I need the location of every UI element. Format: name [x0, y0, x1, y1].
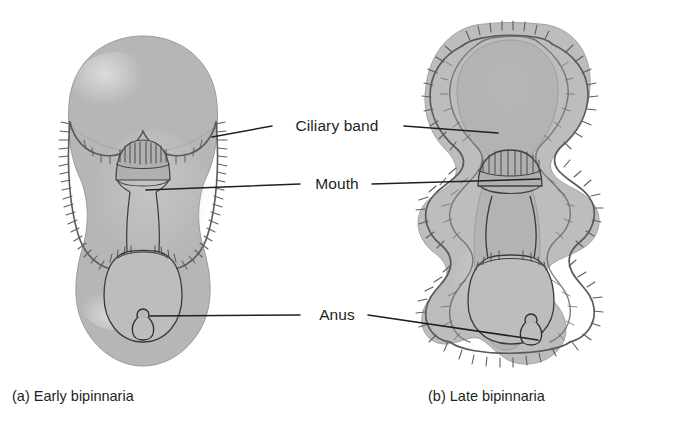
- late-intestine: [520, 323, 541, 345]
- caption-early-bipinnaria: (a) Early bipinnaria: [12, 388, 134, 404]
- larvae-illustration: [0, 0, 674, 422]
- early-intestine: [132, 318, 153, 340]
- label-ciliary-band: Ciliary band: [295, 117, 378, 135]
- early-highlight-upper: [74, 52, 158, 124]
- label-anus: Anus: [319, 306, 355, 324]
- caption-late-bipinnaria: (b) Late bipinnaria: [428, 388, 545, 404]
- late-bipinnaria-specimen: [416, 21, 603, 367]
- figure-canvas: Ciliary band Mouth Anus (a) Early bipinn…: [0, 0, 674, 422]
- leader-anus-left: [150, 315, 300, 316]
- early-bipinnaria-specimen: [59, 36, 227, 366]
- label-mouth: Mouth: [315, 175, 359, 193]
